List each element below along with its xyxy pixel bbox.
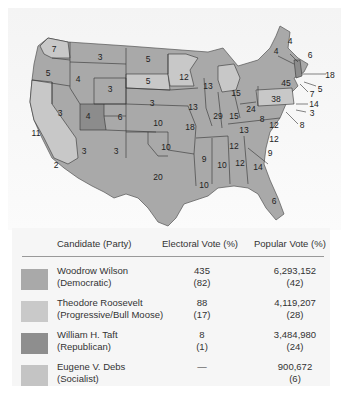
label-wa: 7 [52,44,57,54]
header-candidate: Candidate (Party) [57,238,131,249]
popular-pct: (6) [262,373,328,385]
electoral-votes: 435 [182,265,222,277]
label-sc: 9 [268,148,273,158]
label-md: 8 [300,120,305,130]
label-ms: 10 [217,160,227,170]
label-ca: 11 [32,128,41,138]
label-de: 3 [310,108,315,118]
table-row: Woodrow Wilson(Democratic) 435(82) 6,293… [12,265,330,295]
popular-votes: 6,293,152 [262,265,328,277]
popular-votes: 3,484,980 [262,329,328,341]
state-ut [80,104,106,130]
label-oh: 24 [246,104,256,114]
candidate-name: Woodrow Wilson [57,265,128,277]
candidate-party: (Democratic) [57,277,128,289]
results-table: Candidate (Party) Electoral Vote (%) Pop… [12,228,330,386]
electoral-pct: (82) [182,277,222,289]
candidate-party: (Republican) [57,341,118,353]
label-co: 6 [118,112,123,122]
label-id: 4 [76,74,81,84]
popular-pct: (24) [262,341,328,353]
popular-votes: 900,672 [262,361,328,373]
label-nm: 3 [114,146,119,156]
header-popular: Popular Vote (%) [254,238,326,249]
electoral-votes: 8 [182,329,222,341]
label-ky: 13 [239,125,249,135]
label-fl: 6 [272,196,277,206]
label-vt: 4 [274,46,279,56]
label-ia: 13 [188,102,198,112]
label-tn: 12 [229,141,239,151]
label-mn: 12 [179,72,189,82]
electoral-votes: — [182,361,222,373]
label-wi: 13 [203,81,213,91]
label-ny: 45 [281,78,291,88]
label-mt: 3 [98,52,103,62]
label-il: 29 [213,111,223,121]
label-va: 12 [269,120,279,130]
label-ne: 3 [150,98,155,108]
label-nc: 12 [269,134,279,144]
header-divider [22,256,324,257]
us-map-svg: 7 5 11 2 4 3 3 3 4 6 3 3 5 5 3 10 10 20 … [8,8,341,230]
label-mi: 15 [231,88,241,98]
candidate-name: Theodore Roosevelt [57,297,163,309]
table-row: William H. Taft(Republican) 8(1) 3,484,9… [12,329,330,359]
table-row: Eugene V. Debs(Socialist) — 900,672(6) [12,361,330,391]
candidate-name: Eugene V. Debs [57,361,125,373]
debs-swatch [21,365,48,386]
label-ca-south: 2 [54,160,59,170]
candidate-party: (Socialist) [57,373,125,385]
label-or: 5 [46,68,51,78]
table-header: Candidate (Party) Electoral Vote (%) Pop… [12,238,330,254]
candidate-name: William H. Taft [57,329,118,341]
taft-swatch [21,333,48,354]
label-la: 10 [199,180,209,190]
label-ks: 10 [153,118,163,128]
label-me: 6 [308,50,313,60]
electoral-map: 7 5 11 2 4 3 3 3 4 6 3 3 5 5 3 10 10 20 … [8,8,341,230]
popular-votes: 4,119,207 [262,297,328,309]
popular-pct: (42) [262,277,328,289]
label-ar: 9 [202,154,207,164]
label-nh: 4 [288,36,293,46]
electoral-pct: (17) [182,309,222,321]
electoral-pct: (1) [182,341,222,353]
label-ct: 7 [310,89,315,99]
label-wv: 8 [260,114,265,124]
label-pa: 38 [271,94,281,104]
popular-pct: (28) [262,309,328,321]
roosevelt-swatch [21,301,48,322]
label-tx: 20 [153,172,163,182]
label-az: 3 [82,146,87,156]
label-ma: 18 [325,70,335,80]
label-in: 15 [229,111,239,121]
label-ri: 5 [318,84,323,94]
electoral-votes: 88 [182,297,222,309]
label-al: 12 [235,158,245,168]
candidate-party: (Progressive/Bull Moose) [57,309,163,321]
label-sd: 5 [146,76,151,86]
label-wy: 3 [108,84,113,94]
wilson-swatch [21,269,48,290]
label-nv: 3 [58,108,63,118]
label-mo: 18 [185,122,195,132]
label-ut: 4 [86,111,91,121]
table-row: Theodore Roosevelt(Progressive/Bull Moos… [12,297,330,327]
label-nd: 5 [146,54,151,64]
header-electoral: Electoral Vote (%) [162,238,238,249]
label-ga: 14 [253,162,263,172]
label-ok: 10 [161,142,171,152]
